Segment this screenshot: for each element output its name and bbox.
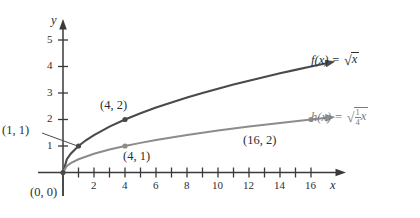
y-tick-label-5: 5 (47, 34, 53, 45)
x-axis-label: x (330, 179, 336, 192)
function-label-h: h(x) = √14x (311, 108, 368, 128)
function-label-f-lhs: f(x) = (311, 53, 340, 67)
point-marker-f-1-1 (76, 143, 81, 148)
fraction-one-quarter: 14 (355, 108, 361, 127)
fraction-denominator: 4 (355, 118, 361, 127)
point-marker-h-4-1 (122, 143, 127, 148)
point-marker-origin (60, 170, 65, 175)
point-label-4-2: (4, 2) (100, 99, 127, 112)
point-label-4-1: (4, 1) (123, 150, 150, 163)
sqrt-icon-h: √14x (346, 108, 369, 128)
x-tick-label-8: 8 (184, 180, 190, 191)
x-tick-label-10: 10 (212, 180, 223, 191)
sqrt-icon-f: √x (343, 53, 359, 67)
radicand-f-text: x (352, 52, 358, 66)
x-tick-label-14: 14 (274, 180, 285, 191)
function-label-f: f(x) = √x (311, 53, 359, 67)
y-tick-label-2: 2 (47, 113, 53, 124)
point-label-1-1: (1, 1) (2, 124, 29, 137)
y-tick-label-4: 4 (47, 60, 53, 71)
y-tick-label-3: 3 (47, 87, 53, 98)
radicand-h: 14x (354, 107, 369, 127)
x-tick-label-12: 12 (243, 180, 254, 191)
radicand-f: x (351, 52, 360, 66)
point-marker-f-4-2 (122, 117, 127, 122)
point-label-origin: (0, 0) (30, 186, 57, 199)
graph-figure: y 5 4 3 2 1 x 2 4 6 8 10 12 14 16 (0, 0)… (0, 0, 420, 218)
radicand-h-variable: x (361, 109, 367, 123)
y-tick-label-1: 1 (47, 140, 53, 151)
curve-f-sqrt-x (63, 60, 335, 173)
x-axis (38, 168, 346, 197)
x-tick-label-4: 4 (122, 180, 128, 191)
x-tick-label-6: 6 (153, 180, 159, 191)
y-axis-label: y (51, 14, 57, 27)
function-label-h-lhs: h(x) = (311, 110, 343, 124)
x-tick-label-2: 2 (91, 180, 97, 191)
curve-h-sqrt-quarter-x (63, 114, 335, 172)
x-tick-label-16: 16 (305, 180, 316, 191)
point-label-16-2: (16, 2) (243, 134, 276, 147)
